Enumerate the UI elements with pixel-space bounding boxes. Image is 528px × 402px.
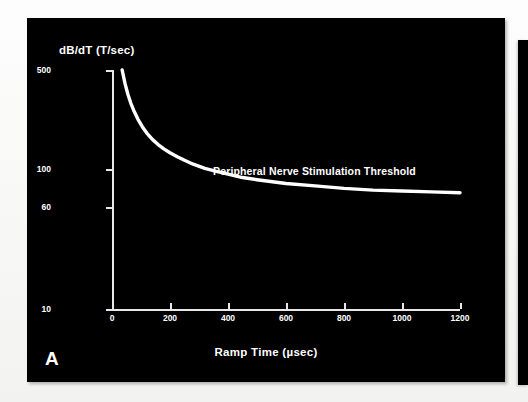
figure-panel-a: dB/dT (T/sec) 500 100 60 10 0 200 400 60… xyxy=(27,18,505,382)
panel-letter-a: A xyxy=(45,348,59,370)
x-axis-title: Ramp Time (µsec) xyxy=(27,346,505,358)
threshold-curve xyxy=(27,18,505,382)
curve-annotation-label: Peripheral Nerve Stimulation Threshold xyxy=(213,165,416,177)
figure-panel-b-partial xyxy=(518,40,528,385)
plot-area: dB/dT (T/sec) 500 100 60 10 0 200 400 60… xyxy=(27,18,505,382)
